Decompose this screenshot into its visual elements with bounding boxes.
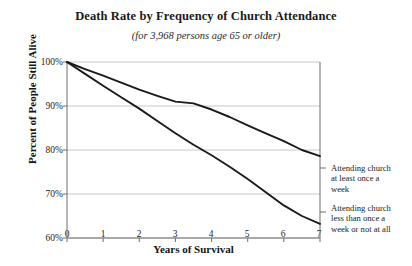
- legend-line: Attending church: [331, 203, 412, 213]
- chart-container: Death Rate by Frequency of Church Attend…: [0, 0, 412, 266]
- legend-line: Attending church: [331, 163, 412, 173]
- series-line-infrequent-attendance: [67, 62, 320, 224]
- series-line-weekly-attendance: [67, 62, 320, 156]
- legend-line: week: [331, 184, 412, 194]
- series-annotation-weekly: Attending church at least once a week: [331, 163, 412, 194]
- series-annotation-infrequent: Attending church less than once a week o…: [331, 203, 412, 234]
- legend-line: less than once a: [331, 213, 412, 223]
- legend-line: week or not at all: [331, 224, 412, 234]
- legend-line: at least once a: [331, 173, 412, 183]
